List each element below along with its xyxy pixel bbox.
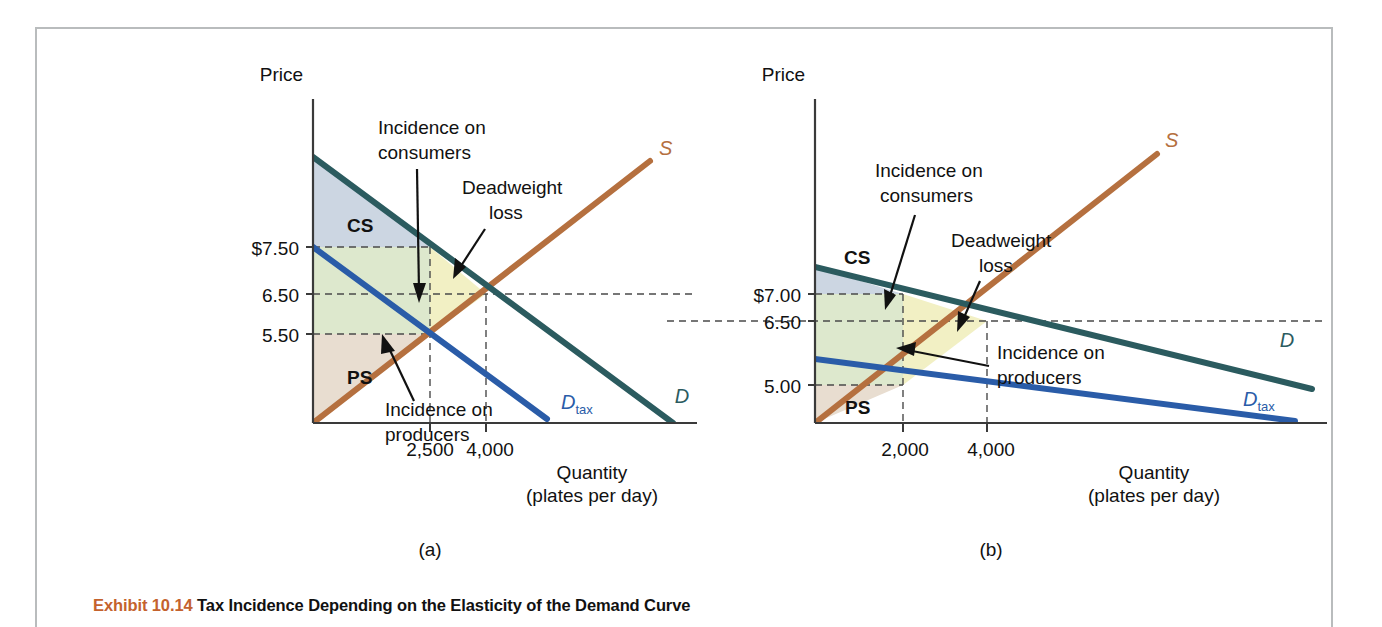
panel-label-b: (b) <box>979 539 1002 560</box>
annotation-line1-b3: Incidence on <box>997 342 1105 363</box>
annotation-incidence-consumers-b: Incidence on consumers <box>875 160 988 206</box>
x-axis-sublabel-a: (plates per day) <box>526 485 658 506</box>
annotation-incidence-consumers-a: Incidence on consumers <box>378 117 491 163</box>
annotation-line1-b2: Deadweight <box>951 230 1052 251</box>
annotation-line1-b1: Incidence on <box>875 160 983 181</box>
annotation-line1-a2: Deadweight <box>462 177 563 198</box>
series-label-dtax-main-b: D <box>1243 388 1257 410</box>
y-tick-label-750-a: $7.50 <box>251 238 299 259</box>
y-tick-label-500-b: 5.00 <box>764 376 801 397</box>
annotation-line2-b3: producers <box>997 367 1082 388</box>
x-axis-label-a: Quantity <box>557 462 628 483</box>
y-axis-label-b: Price <box>762 64 805 85</box>
annotation-line2-a3: producers <box>385 424 470 445</box>
series-label-dtax-a: Dtax <box>561 391 593 417</box>
region-label-cs-a: CS <box>347 215 373 236</box>
chart-panel-b: Price Quantity (plates per day) $7.00 6.… <box>667 29 1327 574</box>
series-label-dtax-sub-b: tax <box>1257 399 1275 414</box>
x-axis-label-b: Quantity <box>1119 462 1190 483</box>
region-label-cs-b: CS <box>844 247 870 268</box>
annotation-line2-a1: consumers <box>378 142 471 163</box>
region-label-ps-a: PS <box>347 367 372 388</box>
exhibit-number: Exhibit 10.14 <box>93 596 193 614</box>
series-label-dtax-sub-a: tax <box>575 402 593 417</box>
exhibit-title: Tax Incidence Depending on the Elasticit… <box>197 596 690 614</box>
annotation-line1-a3: Incidence on <box>385 399 493 420</box>
region-label-ps-b: PS <box>845 397 870 418</box>
annotation-deadweight-loss-a: Deadweight loss <box>462 177 568 223</box>
chart-panel-a: Price Quantity (plates per day) $7.50 6.… <box>37 29 697 574</box>
y-tick-label-700-b: $7.00 <box>753 285 801 306</box>
annotation-line1-a1: Incidence on <box>378 117 486 138</box>
panel-a-svg: Price Quantity (plates per day) $7.50 6.… <box>37 29 697 574</box>
series-label-dtax-main-a: D <box>561 391 575 413</box>
region-producer-incidence-b <box>815 321 903 385</box>
series-label-s-b: S <box>1165 129 1179 151</box>
x-tick-label-2000-b: 2,000 <box>881 439 929 460</box>
annotation-incidence-producers-b: Incidence on producers <box>997 342 1110 388</box>
series-label-dtax-b: Dtax <box>1243 388 1275 414</box>
annotation-deadweight-loss-b: Deadweight loss <box>951 230 1057 276</box>
panel-b-svg: Price Quantity (plates per day) $7.00 6.… <box>667 29 1327 574</box>
y-axis-label-a: Price <box>260 64 303 85</box>
annotation-line2-b2: loss <box>979 255 1013 276</box>
series-label-d-b: D <box>1280 329 1294 351</box>
region-producer-incidence-a <box>313 294 430 334</box>
exhibit-caption: Exhibit 10.14 Tax Incidence Depending on… <box>93 596 1343 615</box>
y-tick-label-650-b: 6.50 <box>764 312 801 333</box>
figure-frame: Price Quantity (plates per day) $7.50 6.… <box>35 27 1333 627</box>
annotation-line2-b1: consumers <box>880 185 973 206</box>
x-tick-label-4000-a: 4,000 <box>466 439 514 460</box>
panel-label-a: (a) <box>418 539 441 560</box>
y-tick-label-550-a: 5.50 <box>262 325 299 346</box>
arrow-line-deadweight-loss-a <box>459 229 485 269</box>
x-tick-label-4000-b: 4,000 <box>967 439 1015 460</box>
y-tick-label-650-a: 6.50 <box>262 285 299 306</box>
x-axis-sublabel-b: (plates per day) <box>1088 485 1220 506</box>
annotation-line2-a2: loss <box>489 202 523 223</box>
